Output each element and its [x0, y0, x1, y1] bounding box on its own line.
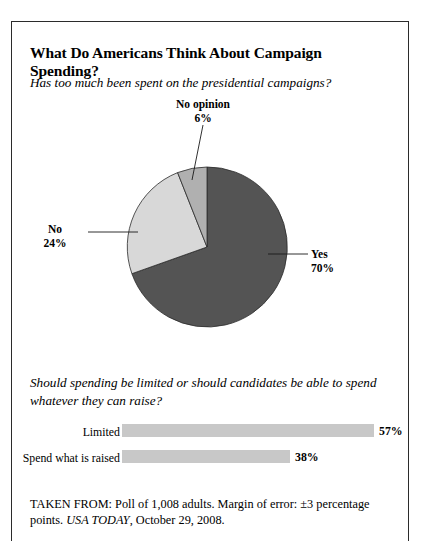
pie-chart: No opinion 6% No 24% Yes 70% [12, 82, 408, 352]
bar-track-limited [122, 424, 374, 437]
bar-label-limited: Limited [0, 425, 120, 440]
bar-chart-question: Should spending be limited or should can… [30, 374, 384, 409]
bar-track-spend-what-is-raised [122, 450, 290, 463]
pie-label-no-opinion: No opinion 6% [155, 97, 251, 126]
pie-label-no-value: 24% [26, 236, 84, 250]
bar-fill-limited [122, 424, 374, 437]
pie-label-yes-name: Yes [311, 247, 369, 261]
bar-chart: Limited 57% Spend what is raised 38% [12, 421, 408, 473]
source-note-suffix: , October 29, 2008. [130, 513, 225, 527]
pie-label-no: No 24% [26, 222, 84, 251]
source-note: TAKEN FROM: Poll of 1,008 adults. Margin… [30, 497, 390, 528]
bar-value-limited: 57% [379, 424, 403, 439]
pie-label-no-name: No [26, 222, 84, 236]
bar-label-spend-what-is-raised: Spend what is raised [0, 451, 120, 466]
bar-row: Limited 57% [12, 421, 408, 443]
pie-label-no-opinion-value: 6% [155, 111, 251, 125]
pie-label-yes: Yes 70% [311, 247, 369, 276]
bar-row: Spend what is raised 38% [12, 447, 408, 469]
bar-value-spend-what-is-raised: 38% [295, 450, 319, 465]
source-note-publication: USA TODAY [66, 513, 129, 527]
pie-label-no-opinion-name: No opinion [155, 97, 251, 111]
pie-label-yes-value: 70% [311, 261, 369, 275]
bar-fill-spend-what-is-raised [122, 450, 290, 463]
figure-container: What Do Americans Think About Campaign S… [11, 21, 409, 541]
